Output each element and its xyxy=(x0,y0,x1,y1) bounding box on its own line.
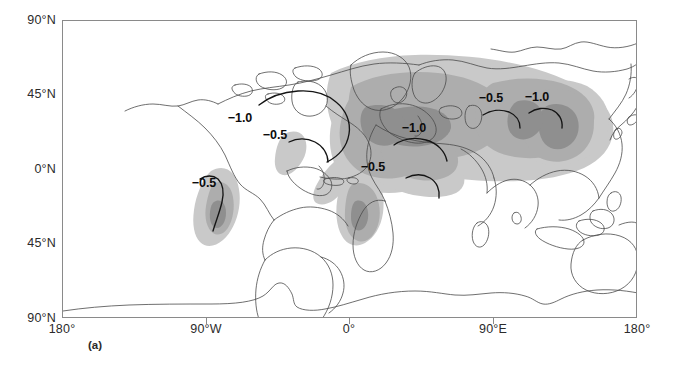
coast-south-america-west xyxy=(256,260,265,318)
coast-antarctica xyxy=(63,283,637,317)
coast-philippines xyxy=(607,192,621,212)
coast-siberia-far-east xyxy=(491,42,637,52)
coast-madagascar xyxy=(472,222,489,247)
x-tick-label: 0° xyxy=(343,322,355,336)
coast-hudson-bay xyxy=(292,81,328,116)
y-tick-label: 90°N xyxy=(0,13,56,27)
coast-new-guinea xyxy=(619,222,637,225)
x-tick-label: 180° xyxy=(624,322,651,336)
y-tick-label: 0°N xyxy=(0,162,56,176)
coast-sri-lanka xyxy=(512,212,521,224)
x-tick-label: 90°W xyxy=(190,322,222,336)
map-canvas xyxy=(63,21,637,318)
coast-australia xyxy=(571,234,637,294)
y-tick-label: 45°N xyxy=(0,236,56,250)
coast-arctic-islands-3 xyxy=(232,84,252,96)
coast-southeast-asia xyxy=(559,198,599,220)
coast-asia-northeast xyxy=(609,64,631,119)
coast-japan-island xyxy=(627,115,637,125)
coast-south-america xyxy=(265,248,333,318)
world-map-plot: −1.0 −0.5 −0.5 −1.0 −0.5 −0.5 −1.0 xyxy=(62,20,637,318)
figure-panel: 90°N 45°N 0°N 45°N 90°N 180° 90°W 0° 90°… xyxy=(0,0,676,371)
coast-alaska xyxy=(125,100,218,111)
panel-label: (a) xyxy=(88,339,102,351)
x-tick-label: 180° xyxy=(49,322,76,336)
coast-borneo xyxy=(590,209,614,228)
coast-indonesia-2 xyxy=(576,219,604,236)
shading-medium xyxy=(205,72,594,242)
coast-south-america-east xyxy=(321,257,344,313)
y-tick-label: 90°N xyxy=(0,311,56,325)
x-tick-label: 90°E xyxy=(479,322,507,336)
y-tick-label: 45°N xyxy=(0,87,56,101)
